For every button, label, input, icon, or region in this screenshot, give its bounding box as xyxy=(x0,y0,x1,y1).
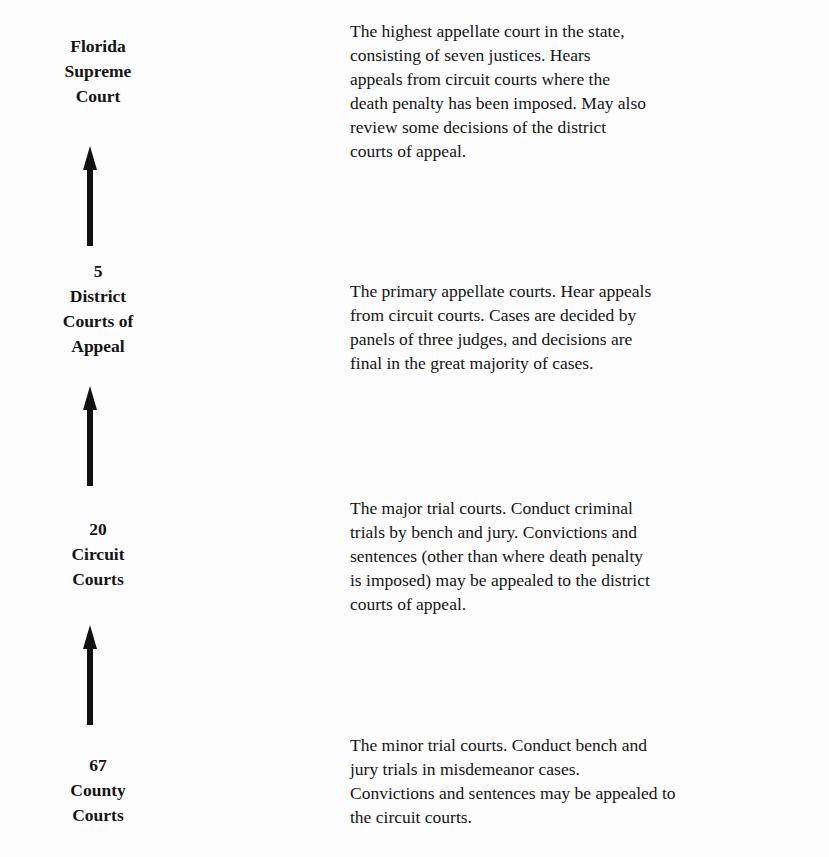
description-line: from circuit courts. Cases are decided b… xyxy=(350,303,820,327)
description-line: appeals from circuit courts where the xyxy=(350,67,820,91)
arrow-up-icon xyxy=(80,625,100,725)
label-line: Courts of xyxy=(37,309,159,334)
description-line: final in the great majority of cases. xyxy=(350,351,820,375)
court-label-circuit: 20 Circuit Courts xyxy=(37,517,159,592)
label-line: 20 xyxy=(37,517,159,542)
label-line: Florida xyxy=(37,34,159,59)
description-line: panels of three judges, and decisions ar… xyxy=(350,327,820,351)
description-line: jury trials in misdemeanor cases. xyxy=(350,757,820,781)
label-line: Courts xyxy=(37,803,159,828)
label-line: 67 xyxy=(37,753,159,778)
description-line: The minor trial courts. Conduct bench an… xyxy=(350,733,820,757)
label-line: County xyxy=(37,778,159,803)
court-description-district: The primary appellate courts. Hear appea… xyxy=(350,279,820,375)
description-line: Convictions and sentences may be appeale… xyxy=(350,781,820,805)
label-line: Appeal xyxy=(37,334,159,359)
court-description-supreme: The highest appellate court in the state… xyxy=(350,19,820,163)
court-description-circuit: The major trial courts. Conduct criminal… xyxy=(350,496,820,616)
label-line: 5 xyxy=(37,259,159,284)
description-line: The major trial courts. Conduct criminal xyxy=(350,496,820,520)
label-line: Courts xyxy=(37,567,159,592)
description-line: death penalty has been imposed. May also xyxy=(350,91,820,115)
description-line: review some decisions of the district xyxy=(350,115,820,139)
description-line: consisting of seven justices. Hears xyxy=(350,43,820,67)
description-line: sentences (other than where death penalt… xyxy=(350,544,820,568)
arrow-up-icon xyxy=(80,386,100,486)
label-line: Circuit xyxy=(37,542,159,567)
court-label-district: 5 District Courts of Appeal xyxy=(37,259,159,359)
description-line: courts of appeal. xyxy=(350,592,820,616)
court-label-supreme: Florida Supreme Court xyxy=(37,34,159,109)
court-description-county: The minor trial courts. Conduct bench an… xyxy=(350,733,820,829)
label-line: Court xyxy=(37,84,159,109)
description-line: The highest appellate court in the state… xyxy=(350,19,820,43)
label-line: Supreme xyxy=(37,59,159,84)
description-line: trials by bench and jury. Convictions an… xyxy=(350,520,820,544)
label-line: District xyxy=(37,284,159,309)
description-line: the circuit courts. xyxy=(350,805,820,829)
arrow-up-icon xyxy=(80,146,100,246)
description-line: courts of appeal. xyxy=(350,139,820,163)
court-label-county: 67 County Courts xyxy=(37,753,159,828)
description-line: The primary appellate courts. Hear appea… xyxy=(350,279,820,303)
description-line: is imposed) may be appealed to the distr… xyxy=(350,568,820,592)
